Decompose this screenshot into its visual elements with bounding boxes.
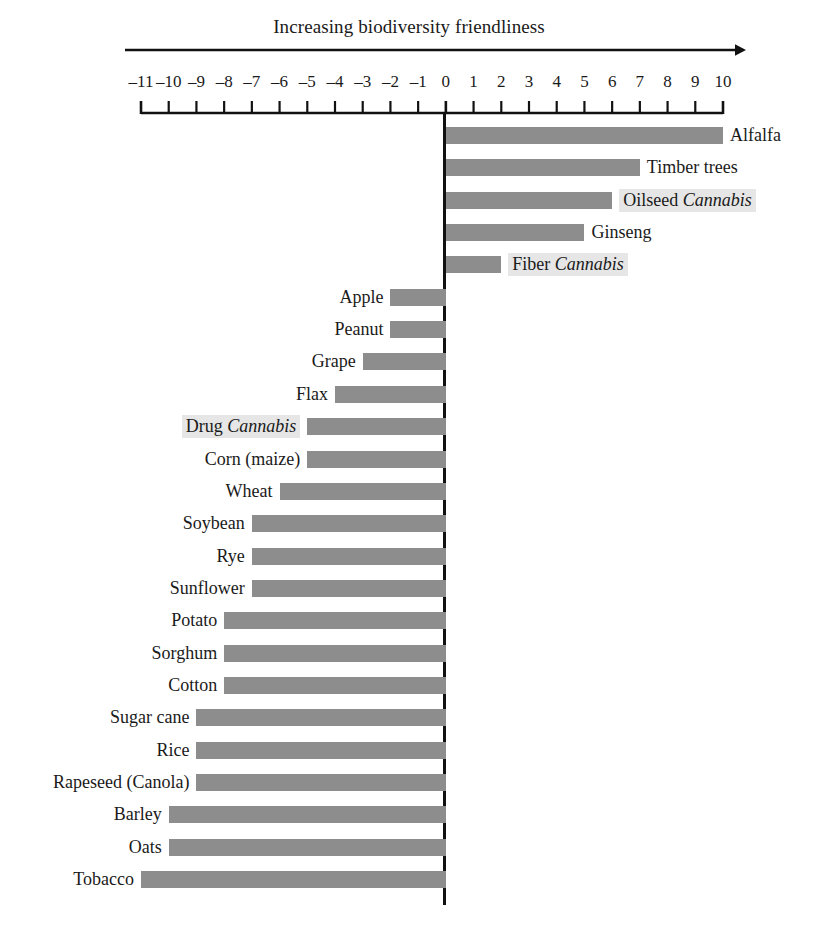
- bar-row[interactable]: Tobacco: [0, 871, 818, 888]
- label-text: Sugar cane: [110, 707, 189, 727]
- bar[interactable]: [446, 127, 723, 144]
- bar-row[interactable]: Fiber Cannabis: [0, 256, 818, 273]
- bar[interactable]: [196, 709, 445, 726]
- label-text: Peanut: [334, 319, 383, 339]
- bar[interactable]: [252, 580, 446, 597]
- label-text-roman: Wheat: [226, 481, 273, 501]
- bar[interactable]: [446, 159, 640, 176]
- bar[interactable]: [224, 645, 446, 662]
- label-text: Rapeseed (Canola): [53, 772, 189, 792]
- bar[interactable]: [390, 289, 445, 306]
- bar[interactable]: [252, 548, 446, 565]
- bar-row[interactable]: Alfalfa: [0, 127, 818, 144]
- bar[interactable]: [196, 742, 445, 759]
- bar-category-label: Oilseed Cannabis: [619, 188, 756, 213]
- bar[interactable]: [390, 321, 445, 338]
- bar[interactable]: [363, 353, 446, 370]
- label-text: Rye: [217, 546, 245, 566]
- label-text-roman: Fiber: [512, 254, 555, 274]
- label-text: Drug Cannabis: [182, 415, 301, 438]
- label-text-roman: Ginseng: [591, 222, 651, 242]
- label-text-roman: Timber trees: [647, 157, 738, 177]
- bar-category-label: Flax: [296, 382, 328, 407]
- label-text: Timber trees: [647, 157, 738, 177]
- bar-category-label: Corn (maize): [205, 447, 300, 472]
- label-text: Apple: [339, 287, 383, 307]
- label-text-roman: Cotton: [168, 675, 217, 695]
- label-text-roman: Barley: [114, 804, 162, 824]
- bar-row[interactable]: Oats: [0, 839, 818, 856]
- bar[interactable]: [224, 677, 446, 694]
- bar-row[interactable]: Rye: [0, 548, 818, 565]
- bar-row[interactable]: Grape: [0, 353, 818, 370]
- bar-row[interactable]: Barley: [0, 806, 818, 823]
- bar-category-label: Sorghum: [151, 641, 217, 666]
- bar-row[interactable]: Sorghum: [0, 645, 818, 662]
- bar[interactable]: [169, 839, 446, 856]
- label-text: Grape: [312, 351, 356, 371]
- bar[interactable]: [224, 612, 446, 629]
- bar-category-label: Rye: [217, 544, 245, 569]
- bar[interactable]: [446, 224, 585, 241]
- bar-row[interactable]: Oilseed Cannabis: [0, 192, 818, 209]
- label-text-roman: Oilseed: [623, 190, 682, 210]
- bar[interactable]: [169, 806, 446, 823]
- label-text-roman: Drug: [186, 416, 228, 436]
- label-text-roman: Peanut: [334, 319, 383, 339]
- bar-row[interactable]: Cotton: [0, 677, 818, 694]
- label-text-roman: Alfalfa: [730, 125, 781, 145]
- bar[interactable]: [307, 418, 446, 435]
- label-text-roman: Sugar cane: [110, 707, 189, 727]
- bar-category-label: Barley: [114, 802, 162, 827]
- bar[interactable]: [141, 871, 446, 888]
- bar[interactable]: [196, 774, 445, 791]
- bar[interactable]: [446, 256, 501, 273]
- label-text: Alfalfa: [730, 125, 781, 145]
- bar-row[interactable]: Potato: [0, 612, 818, 629]
- bar-category-label: Drug Cannabis: [182, 414, 301, 439]
- bar-row[interactable]: Soybean: [0, 515, 818, 532]
- bar-category-label: Grape: [312, 349, 356, 374]
- label-text: Potato: [171, 610, 217, 630]
- label-text: Sorghum: [151, 643, 217, 663]
- label-text: Oilseed Cannabis: [619, 189, 756, 212]
- bar-row[interactable]: Rapeseed (Canola): [0, 774, 818, 791]
- bar[interactable]: [335, 386, 446, 403]
- bar[interactable]: [252, 515, 446, 532]
- bar[interactable]: [307, 451, 446, 468]
- bar-category-label: Wheat: [226, 479, 273, 504]
- bar-row[interactable]: Apple: [0, 289, 818, 306]
- bar-row[interactable]: Sunflower: [0, 580, 818, 597]
- bar-category-label: Alfalfa: [730, 123, 781, 148]
- bar-row[interactable]: Sugar cane: [0, 709, 818, 726]
- label-text: Flax: [296, 384, 328, 404]
- bar-category-label: Peanut: [334, 317, 383, 342]
- label-text: Rice: [156, 740, 189, 760]
- label-text-roman: Tobacco: [73, 869, 134, 889]
- label-text-roman: Rapeseed (Canola): [53, 772, 189, 792]
- bar-row[interactable]: Wheat: [0, 483, 818, 500]
- bar-row[interactable]: Peanut: [0, 321, 818, 338]
- chart-canvas: Increasing biodiversity friendliness –11…: [0, 0, 818, 949]
- label-text-roman: Flax: [296, 384, 328, 404]
- bar-category-label: Rice: [156, 738, 189, 763]
- label-text: Oats: [129, 837, 162, 857]
- label-text-roman: Sorghum: [151, 643, 217, 663]
- bar-category-label: Cotton: [168, 673, 217, 698]
- bar-category-label: Rapeseed (Canola): [53, 770, 189, 795]
- bar-category-label: Ginseng: [591, 220, 651, 245]
- bar-row[interactable]: Rice: [0, 742, 818, 759]
- bar[interactable]: [280, 483, 446, 500]
- bar-category-label: Oats: [129, 835, 162, 860]
- bar-row[interactable]: Flax: [0, 386, 818, 403]
- bar-row[interactable]: Corn (maize): [0, 451, 818, 468]
- bars-plot-area: AlfalfaTimber treesOilseed CannabisGinse…: [0, 0, 818, 949]
- bar-category-label: Sunflower: [170, 576, 245, 601]
- bar-row[interactable]: Drug Cannabis: [0, 418, 818, 435]
- bar-row[interactable]: Ginseng: [0, 224, 818, 241]
- bar-row[interactable]: Timber trees: [0, 159, 818, 176]
- label-text: Barley: [114, 804, 162, 824]
- bar[interactable]: [446, 192, 612, 209]
- bar-category-label: Sugar cane: [110, 705, 189, 730]
- label-text: Tobacco: [73, 869, 134, 889]
